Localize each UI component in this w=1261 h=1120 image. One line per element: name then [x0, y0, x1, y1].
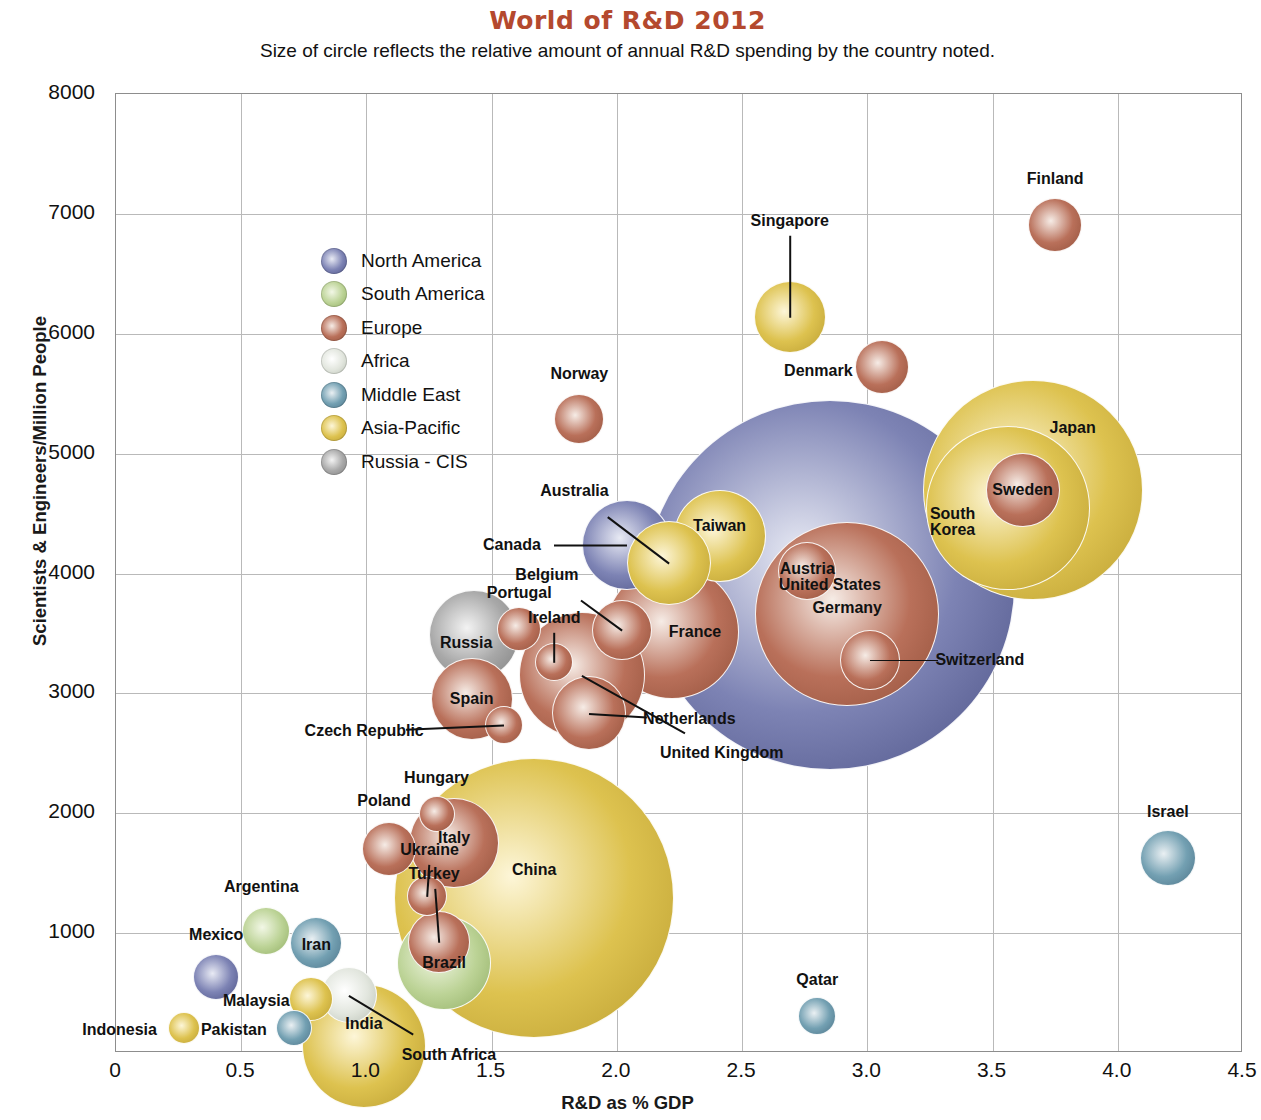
x-tick-label: 2.5: [701, 1058, 781, 1082]
bubble-label-china: China: [512, 862, 556, 879]
legend-item-label: Middle East: [361, 384, 460, 406]
bubble-label-norway: Norway: [550, 365, 608, 382]
bubble-label-brazil: Brazil: [422, 955, 466, 972]
bubble-label-pakistan: Pakistan: [201, 1021, 267, 1038]
legend-swatch-icon: [321, 449, 347, 475]
gridline-vertical: [241, 94, 242, 1051]
legend-swatch-icon: [321, 348, 347, 374]
legend-swatch-icon: [321, 248, 347, 274]
legend-item-europe[interactable]: Europe: [321, 311, 485, 345]
legend-item-asia-pacific[interactable]: Asia-Pacific: [321, 412, 485, 446]
bubble-label-japan: Japan: [1050, 419, 1096, 436]
bubble-qatar[interactable]: [798, 997, 836, 1035]
bubble-label-india: India: [345, 1015, 382, 1032]
gridline-horizontal: [116, 334, 1241, 335]
bubble-hungary[interactable]: [419, 796, 455, 832]
bubble-indonesia[interactable]: [168, 1012, 200, 1044]
x-axis-label: R&D as % GDP: [0, 1092, 1255, 1114]
x-tick-label: 3.5: [952, 1058, 1032, 1082]
legend-swatch-icon: [321, 315, 347, 341]
legend-swatch-icon: [321, 382, 347, 408]
leader-line-switzerland: [870, 660, 938, 662]
leader-line-singapore: [789, 236, 791, 318]
x-tick-label: 3.0: [826, 1058, 906, 1082]
bubble-norway[interactable]: [554, 394, 604, 444]
leader-line-canada: [554, 545, 627, 547]
legend-swatch-icon: [321, 415, 347, 441]
legend-item-africa[interactable]: Africa: [321, 345, 485, 379]
y-tick-label: 1000: [0, 919, 95, 943]
x-tick-label: 0: [75, 1058, 155, 1082]
bubble-label-qatar: Qatar: [796, 971, 838, 988]
bubble-label-south-korea: South Korea: [930, 506, 975, 540]
legend-item-label: Asia-Pacific: [361, 417, 460, 439]
bubble-label-germany: Germany: [813, 600, 882, 617]
bubble-label-singapore: Singapore: [751, 213, 829, 230]
y-axis-label: Scientists & Engineers/Million People: [29, 131, 51, 831]
x-tick-label: 1.5: [451, 1058, 531, 1082]
gridline-vertical: [366, 94, 367, 1051]
bubble-label-israel: Israel: [1147, 803, 1189, 820]
bubble-label-austria: Austria: [780, 561, 835, 578]
bubble-label-ukraine: Ukraine: [400, 842, 459, 859]
bubble-argentina[interactable]: [242, 907, 290, 955]
x-tick-label: 2.0: [576, 1058, 656, 1082]
bubble-denmark[interactable]: [855, 340, 909, 394]
chart-legend: North AmericaSouth AmericaEuropeAfricaMi…: [321, 244, 485, 479]
bubble-label-australia: Australia: [540, 482, 608, 499]
bubble-label-portugal: Portugal: [487, 584, 552, 601]
bubble-label-finland: Finland: [1027, 170, 1084, 187]
bubble-pakistan[interactable]: [276, 1010, 312, 1046]
bubble-label-belgium: Belgium: [515, 566, 578, 583]
bubble-label-turkey: Turkey: [408, 865, 459, 882]
bubble-label-russia: Russia: [440, 634, 492, 651]
bubble-label-denmark: Denmark: [784, 363, 852, 380]
bubble-label-czech-republic: Czech Republic: [305, 722, 424, 739]
legend-item-label: Russia - CIS: [361, 451, 468, 473]
gridline-vertical: [1118, 94, 1119, 1051]
bubble-label-malaysia: Malaysia: [223, 993, 290, 1010]
plot-area: United StatesJapanSouth KoreaChinaGerman…: [115, 93, 1242, 1052]
x-tick-label: 1.0: [325, 1058, 405, 1082]
bubble-finland[interactable]: [1028, 198, 1082, 252]
bubble-label-spain: Spain: [450, 691, 494, 708]
gridline-horizontal: [116, 813, 1241, 814]
legend-item-north-america[interactable]: North America: [321, 244, 485, 278]
legend-item-label: Africa: [361, 350, 410, 372]
bubble-label-ireland: Ireland: [528, 610, 580, 627]
bubble-label-france: France: [669, 624, 721, 641]
bubble-israel[interactable]: [1140, 830, 1196, 886]
bubble-label-iran: Iran: [302, 936, 331, 953]
bubble-label-argentina: Argentina: [224, 878, 299, 895]
bubble-label-netherlands: Netherlands: [643, 710, 735, 727]
x-tick-label: 4.0: [1077, 1058, 1157, 1082]
legend-item-label: North America: [361, 250, 481, 272]
bubble-label-taiwan: Taiwan: [693, 518, 746, 535]
legend-item-label: Europe: [361, 317, 422, 339]
legend-item-middle-east[interactable]: Middle East: [321, 378, 485, 412]
bubble-label-hungary: Hungary: [404, 770, 469, 787]
bubble-label-sweden: Sweden: [992, 481, 1052, 498]
bubble-label-united-kingdom: United Kingdom: [660, 745, 784, 762]
bubble-label-poland: Poland: [357, 793, 410, 810]
legend-item-russia-cis[interactable]: Russia - CIS: [321, 445, 485, 479]
bubble-label-united-states: United States: [779, 577, 881, 594]
x-tick-label: 0.5: [200, 1058, 280, 1082]
chart-subtitle: Size of circle reflects the relative amo…: [0, 40, 1255, 62]
bubble-label-canada: Canada: [483, 536, 541, 553]
legend-item-label: South America: [361, 283, 485, 305]
bubble-label-mexico: Mexico: [189, 927, 243, 944]
bubble-label-switzerland: Switzerland: [935, 651, 1024, 668]
legend-swatch-icon: [321, 281, 347, 307]
bubble-label-indonesia: Indonesia: [82, 1021, 157, 1038]
legend-item-south-america[interactable]: South America: [321, 278, 485, 312]
chart-title: World of R&D 2012: [0, 6, 1255, 35]
y-tick-label: 8000: [0, 80, 95, 104]
x-tick-label: 4.5: [1202, 1058, 1261, 1082]
